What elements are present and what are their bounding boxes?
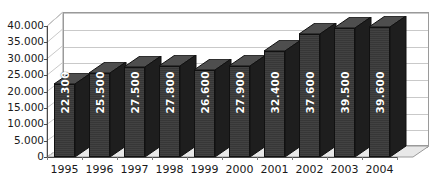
bar[interactable]: 27.900 — [229, 66, 250, 157]
bar-value-label: 26.600 — [199, 93, 211, 114]
x-tick-mark — [187, 157, 188, 160]
bar[interactable]: 27.800 — [159, 66, 180, 157]
bar[interactable]: 25.500 — [89, 73, 110, 157]
bar-side-face — [390, 16, 406, 157]
x-tick-mark — [152, 157, 153, 160]
bar[interactable]: 39.600 — [369, 27, 390, 157]
x-tick-mark — [47, 157, 48, 160]
x-tick-mark — [117, 157, 118, 160]
bar-chart: 05.00010.00015.00020.00025.00030.00035.0… — [0, 0, 441, 185]
x-tick-mark — [397, 157, 398, 160]
bar[interactable]: 27.500 — [124, 67, 145, 157]
bar-value-label: 27.900 — [234, 93, 246, 114]
x-tick-mark — [362, 157, 363, 160]
bar[interactable]: 37.600 — [299, 34, 320, 157]
bar-value-label: 27.500 — [129, 93, 141, 114]
bar-value-label: 39.600 — [374, 93, 386, 114]
bar-value-label: 25.500 — [94, 93, 106, 114]
bar[interactable]: 32.400 — [264, 51, 285, 157]
bar-value-label: 27.800 — [164, 93, 176, 114]
bar-value-label: 39.500 — [339, 93, 351, 114]
x-tick-mark — [82, 157, 83, 160]
x-tick-mark — [327, 157, 328, 160]
x-tick-label: 2004 — [355, 163, 405, 176]
bar[interactable]: 39.500 — [334, 28, 355, 157]
bar[interactable]: 26.600 — [194, 70, 215, 157]
bar[interactable]: 22.300 — [54, 84, 75, 157]
bar-value-label: 22.300 — [59, 93, 71, 114]
bar-value-label: 37.600 — [304, 93, 316, 114]
x-tick-mark — [257, 157, 258, 160]
x-tick-mark — [222, 157, 223, 160]
bar-value-label: 32.400 — [269, 93, 281, 114]
x-tick-mark — [292, 157, 293, 160]
